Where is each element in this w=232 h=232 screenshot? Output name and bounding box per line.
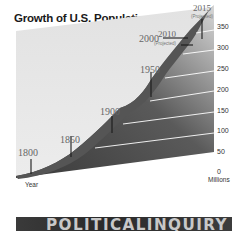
y-tick-300: 300: [217, 44, 229, 51]
y-tick-350: 350: [217, 23, 229, 30]
y-tick-0: 0: [217, 168, 221, 175]
y-axis-unit: Millions: [208, 176, 230, 183]
banner-text: POLITICALINQUIRY: [46, 217, 228, 231]
year-label-1950: 1950: [140, 64, 160, 75]
source-banner: POLITICALINQUIRY: [16, 217, 232, 231]
projected-note-2015: (Projected): [191, 14, 213, 19]
y-tick-250: 250: [217, 65, 229, 72]
projected-note-2010: (Projected): [154, 41, 176, 46]
y-tick-50: 50: [217, 148, 225, 155]
y-tick-150: 150: [217, 107, 229, 114]
year-label-2015: 2015: [193, 3, 211, 13]
y-tick-200: 200: [217, 86, 229, 93]
year-label-1850: 1850: [60, 134, 80, 145]
year-label-1900: 1900: [100, 106, 120, 117]
year-label-2010: 2010: [158, 29, 176, 39]
x-axis-label: Year: [25, 181, 38, 188]
year-label-1800: 1800: [18, 147, 38, 158]
y-tick-100: 100: [217, 127, 229, 134]
